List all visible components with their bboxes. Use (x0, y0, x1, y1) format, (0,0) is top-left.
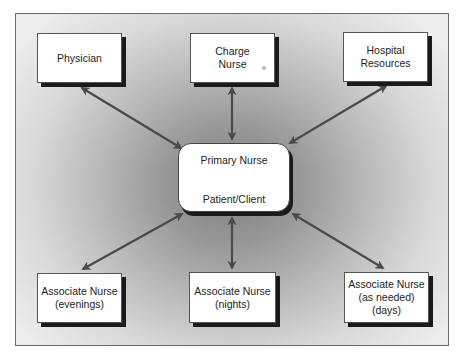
node-label: Resources (360, 57, 410, 70)
node-primary-nurse-patient: Primary Nurse Patient/Client (178, 143, 290, 212)
node-label: Charge (215, 45, 249, 58)
node-label: (nights) (215, 298, 250, 311)
node-label: Associate Nurse (194, 285, 270, 298)
primary-nurse-label: Primary Nurse (179, 154, 289, 166)
node-physician: Physician (37, 33, 122, 83)
node-label: Hospital (367, 44, 405, 57)
node-label: Physician (57, 52, 102, 65)
node-label: Associate Nurse (348, 278, 424, 291)
patient-client-label: Patient/Client (179, 193, 289, 205)
node-associate-nurse-as-needed: Associate Nurse (as needed) (days) (344, 272, 429, 323)
node-charge-nurse: Charge Nurse (190, 33, 275, 83)
node-label: Nurse (218, 58, 246, 71)
scan-artifact-dot (262, 66, 266, 70)
node-associate-nurse-nights: Associate Nurse (nights) (189, 272, 276, 323)
node-label: (evenings) (55, 298, 104, 311)
node-label: (as needed) (358, 291, 414, 304)
node-associate-nurse-evenings: Associate Nurse (evenings) (37, 273, 122, 323)
node-label: Associate Nurse (41, 285, 117, 298)
node-hospital-resources: Hospital Resources (343, 32, 428, 82)
node-label: (days) (372, 304, 401, 317)
